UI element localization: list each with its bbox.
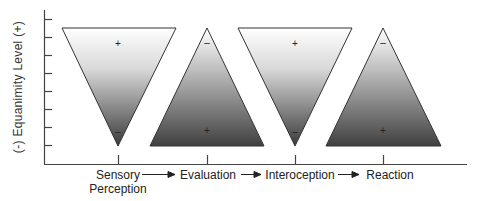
plus-sign: +: [380, 125, 386, 136]
minus-sign: –: [380, 37, 386, 48]
plus-sign: +: [292, 38, 298, 49]
plus-sign: +: [204, 125, 210, 136]
minus-sign: –: [204, 37, 210, 48]
x-axis: [44, 155, 467, 165]
stage-label-evaluation: Evaluation: [178, 168, 238, 182]
y-axis-label: (-) Equanimity Level (+): [11, 17, 25, 157]
stage-label-reaction: Reaction: [360, 168, 420, 182]
plus-sign: +: [115, 38, 121, 49]
stage-label-line: Sensory: [82, 168, 154, 182]
minus-sign: –: [115, 126, 121, 137]
stage-label-line: Perception: [82, 182, 154, 196]
stage-label-interoception: Interoception: [263, 168, 337, 182]
y-axis: [44, 10, 52, 165]
minus-sign: –: [292, 126, 298, 137]
stage-label-sensory-perception: Sensory Perception: [82, 168, 154, 196]
